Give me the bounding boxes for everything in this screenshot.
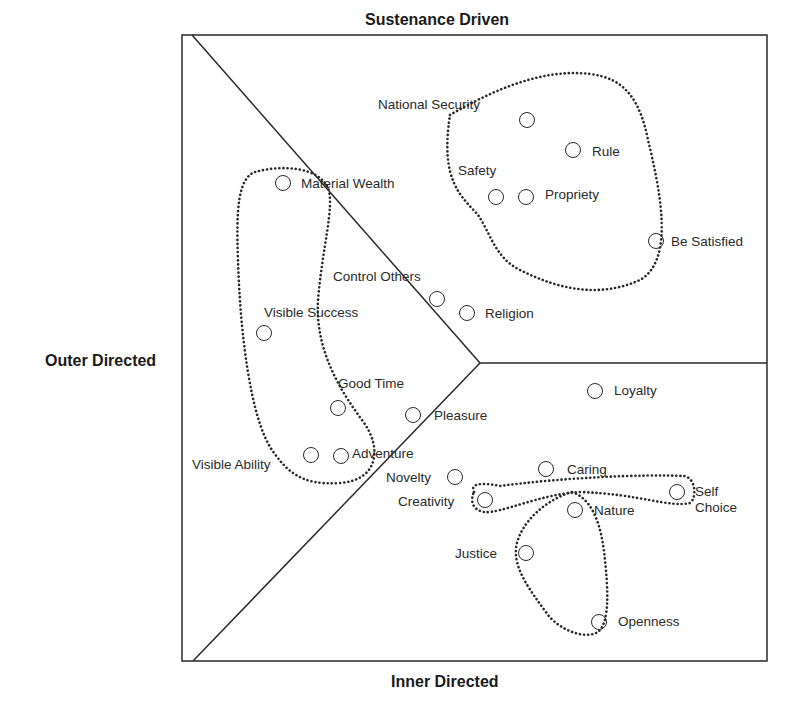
node-circle-material-wealth — [275, 175, 291, 191]
node-circle-adventure — [333, 448, 349, 464]
axis-label-top: Sustenance Driven — [365, 11, 509, 29]
node-label-caring: Caring — [567, 462, 607, 478]
node-circle-control-others — [429, 291, 445, 307]
diagram-frame — [182, 35, 767, 661]
cluster-outer-directed — [237, 168, 374, 483]
node-circle-justice — [518, 545, 534, 561]
node-label-be-satisfied: Be Satisfied — [671, 234, 743, 250]
node-label-creativity: Creativity — [398, 494, 454, 510]
node-circle-visible-ability — [303, 447, 319, 463]
node-label-religion: Religion — [485, 306, 534, 322]
node-label-good-time: Good Time — [338, 376, 404, 392]
node-circle-good-time — [330, 400, 346, 416]
node-circle-novelty — [447, 469, 463, 485]
node-label-national-security: National Security — [378, 97, 480, 113]
node-circle-nature — [567, 502, 583, 518]
node-label-nature: Nature — [594, 503, 635, 519]
node-label-visible-ability: Visible Ability — [192, 457, 271, 473]
node-label-self-choice: Self Choice — [695, 484, 737, 516]
node-circle-visible-success — [256, 325, 272, 341]
node-label-adventure: Adventure — [352, 446, 414, 462]
node-label-justice: Justice — [455, 546, 497, 562]
node-circle-national-security — [519, 112, 535, 128]
node-circle-self-choice — [669, 484, 685, 500]
node-label-loyalty: Loyalty — [614, 383, 657, 399]
node-circle-caring — [538, 461, 554, 477]
axis-label-bottom: Inner Directed — [391, 673, 499, 691]
node-label-material-wealth: Material Wealth — [301, 176, 395, 192]
node-label-novelty: Novelty — [386, 470, 431, 486]
node-label-propriety: Propriety — [545, 187, 599, 203]
node-circle-religion — [459, 305, 475, 321]
node-circle-openness — [591, 614, 607, 630]
node-label-control-others: Control Others — [333, 269, 421, 285]
node-circle-creativity — [477, 492, 493, 508]
node-circle-loyalty — [587, 383, 603, 399]
node-label-safety: Safety — [458, 163, 496, 179]
node-circle-propriety — [518, 189, 534, 205]
cluster-creativity-self-choice — [472, 475, 694, 512]
node-circle-pleasure — [405, 407, 421, 423]
node-circle-rule — [565, 142, 581, 158]
node-label-rule: Rule — [592, 144, 620, 160]
node-label-openness: Openness — [618, 614, 680, 630]
node-label-pleasure: Pleasure — [434, 408, 487, 424]
node-circle-be-satisfied — [648, 233, 664, 249]
axis-label-left: Outer Directed — [45, 352, 156, 370]
node-circle-safety — [488, 189, 504, 205]
node-label-visible-success: Visible Success — [264, 305, 358, 321]
